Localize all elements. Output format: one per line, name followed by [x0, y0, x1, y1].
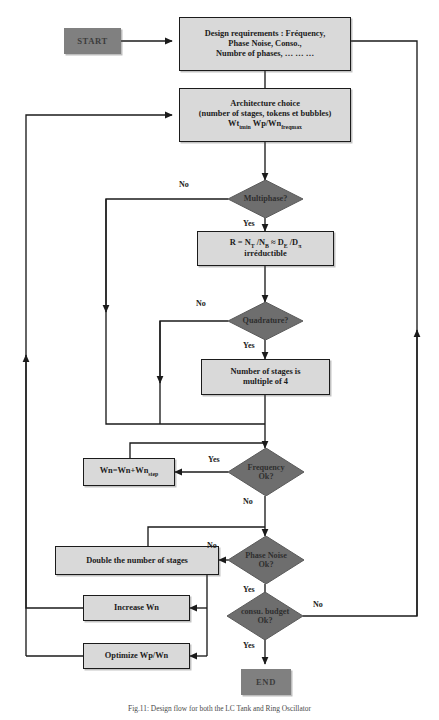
- wt-subscript: tmin: [239, 124, 251, 130]
- double-stages-box[interactable]: Double the number of stages: [55, 546, 219, 575]
- consu-budget-line2: Ok?: [257, 616, 272, 625]
- increase-wn-box[interactable]: Increase Wn: [83, 595, 190, 621]
- end-label: END: [256, 677, 276, 687]
- consu-budget-label: consu. budget Ok?: [227, 607, 303, 626]
- edge-label-phasenoise-yes: Yes: [243, 585, 255, 594]
- edge-label-frequency-yes: Yes: [208, 455, 220, 464]
- edge-label-phasenoise-no: No: [207, 541, 217, 550]
- design-requirements-box[interactable]: Design requirements : Fréquency, Phase N…: [179, 17, 351, 71]
- optimize-wpwn-box[interactable]: Optimize Wp/Wn: [83, 643, 190, 669]
- edge-label-quadrature-no: No: [196, 299, 206, 308]
- ratio-formula-line1: R = NT /NB ≈ DE /Dπ: [230, 238, 302, 250]
- quadrature-decision[interactable]: Quadrature?: [228, 302, 303, 340]
- edge-label-multiphase-no: No: [179, 180, 189, 189]
- frequency-ok-line1: Frequency: [247, 463, 284, 472]
- edge-label-frequency-no: No: [243, 497, 253, 506]
- wt-text: Wt: [228, 119, 239, 128]
- optimize-wpwn-label: Optimize Wp/Wn: [105, 651, 168, 661]
- increment-wn-box[interactable]: Wn=Wn+Wnstep: [83, 458, 175, 486]
- edge-label-multiphase-yes: Yes: [243, 219, 255, 228]
- edge-label-consu-no: No: [313, 600, 323, 609]
- phase-noise-line1: Phase Noise: [245, 551, 287, 560]
- architecture-choice-line1: Architecture choice: [230, 99, 300, 109]
- flowchart-canvas: START Design requirements : Fréquency, P…: [0, 0, 439, 720]
- frequency-ok-decision[interactable]: Frequency Ok?: [228, 448, 304, 496]
- stages-multiple-box[interactable]: Number of stages is multiple of 4: [201, 359, 330, 395]
- ratio-formula-box[interactable]: R = NT /NB ≈ DE /Dπ irréductible: [197, 231, 334, 266]
- start-terminator[interactable]: START: [64, 28, 121, 54]
- figure-caption: Fig.11: Design flow for both the LC Tank…: [0, 704, 439, 713]
- stages-multiple-line1: Number of stages is: [231, 367, 301, 377]
- formula-slash-n: /N: [255, 238, 265, 247]
- design-requirements-line2: Phase Noise, Conso.,: [228, 39, 301, 49]
- increment-wn-subscript: step: [148, 471, 158, 477]
- end-terminator[interactable]: END: [241, 669, 291, 695]
- phase-noise-ok-label: Phase Noise Ok?: [228, 551, 304, 570]
- ratio-formula-line2: irréductible: [244, 249, 286, 259]
- increment-wn-text: Wn=Wn+Wn: [100, 466, 149, 475]
- architecture-choice-line2: (number of stages, tokens et bubbles): [199, 109, 331, 119]
- architecture-choice-line3: Wttmin Wp/Wnfreqmax: [228, 119, 302, 131]
- architecture-choice-box[interactable]: Architecture choice (number of stages, t…: [179, 88, 351, 142]
- start-label: START: [77, 36, 108, 46]
- wpwn-subscript: freqmax: [281, 124, 302, 130]
- quadrature-label: Quadrature?: [228, 316, 303, 325]
- formula-r: R = N: [230, 238, 251, 247]
- increase-wn-label: Increase Wn: [114, 603, 159, 613]
- consu-budget-line1: consu. budget: [241, 607, 289, 616]
- consu-budget-ok-decision[interactable]: consu. budget Ok?: [227, 592, 303, 640]
- wpwn-text: Wp/Wn: [253, 119, 281, 128]
- frequency-ok-label: Frequency Ok?: [228, 463, 304, 482]
- edge-label-quadrature-yes: Yes: [243, 341, 255, 350]
- formula-sub-pi: π: [298, 242, 301, 248]
- stages-multiple-line2: multiple of 4: [243, 377, 288, 387]
- increment-wn-label: Wn=Wn+Wnstep: [100, 466, 159, 478]
- formula-approx-d: ≈ D: [269, 238, 284, 247]
- design-requirements-line3: Numbre of phases, … … …: [216, 49, 314, 59]
- phase-noise-ok-decision[interactable]: Phase Noise Ok?: [228, 536, 304, 584]
- design-requirements-line1: Design requirements : Fréquency,: [205, 29, 326, 39]
- double-stages-label: Double the number of stages: [86, 556, 188, 566]
- phase-noise-line2: Ok?: [258, 560, 273, 569]
- edge-label-consu-yes: Yes: [243, 641, 255, 650]
- wire-left-return-bus: [26, 115, 172, 608]
- frequency-ok-line2: Ok?: [258, 472, 273, 481]
- formula-slash-d: /D: [288, 238, 298, 247]
- multiphase-label: Multiphase?: [228, 194, 303, 203]
- multiphase-decision[interactable]: Multiphase?: [228, 180, 303, 218]
